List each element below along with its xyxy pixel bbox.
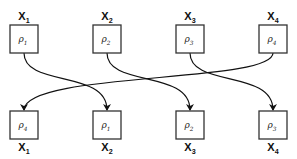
position-label-subscript: 2	[109, 17, 113, 25]
bottom-row-node-1: ρ4X1	[10, 111, 38, 156]
node-label-subscript: 1	[24, 40, 28, 46]
position-label-subscript: 4	[275, 17, 279, 25]
node-label-subscript: 2	[106, 40, 111, 46]
position-label: X1	[18, 141, 29, 156]
edge-arrow-3	[190, 53, 273, 110]
top-row-node-2: ρ2X2	[93, 10, 121, 53]
edge-arrow-1	[24, 53, 107, 110]
position-label: X3	[184, 141, 195, 156]
node-label-subscript: 3	[273, 126, 277, 132]
bottom-row-node-2: ρ1X2	[93, 111, 121, 156]
node-label-subscript: 3	[190, 40, 194, 46]
node-label-subscript: 2	[189, 126, 194, 132]
top-row-node-4: ρ4X4	[259, 10, 287, 53]
node-label-subscript: 4	[272, 40, 277, 46]
bottom-row-node-4: ρ3X4	[259, 111, 287, 156]
position-label-subscript: 3	[192, 148, 196, 156]
permutation-diagram: ρ1X1ρ2X2ρ3X3ρ4X4ρ4X1ρ1X2ρ2X3ρ3X4	[0, 0, 297, 159]
node-label-subscript: 1	[107, 126, 111, 132]
top-row-node-3: ρ3X3	[176, 10, 204, 53]
node-label-subscript: 4	[23, 126, 28, 132]
position-label-subscript: 2	[109, 148, 113, 156]
position-label: X4	[267, 10, 278, 25]
position-label-subscript: 1	[26, 148, 30, 156]
position-label-subscript: 1	[26, 17, 30, 25]
top-row-node-1: ρ1X1	[10, 10, 38, 53]
position-label: X1	[18, 10, 29, 25]
bottom-row-node-3: ρ2X3	[176, 111, 204, 156]
edge-arrow-4	[24, 53, 273, 110]
position-label: X4	[267, 141, 278, 156]
position-label: X3	[184, 10, 195, 25]
position-label-subscript: 3	[192, 17, 196, 25]
position-label: X2	[101, 10, 112, 25]
position-label-subscript: 4	[275, 148, 279, 156]
position-label: X2	[101, 141, 112, 156]
